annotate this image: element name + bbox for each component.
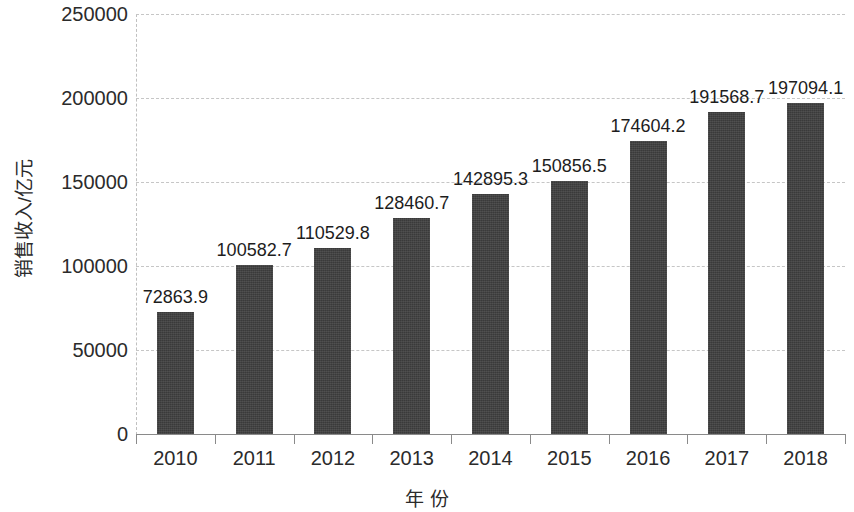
bar[interactable] [236, 265, 273, 434]
y-axis-tick-label: 100000 [20, 256, 128, 276]
x-axis-tick-mark [766, 435, 767, 444]
bar[interactable] [551, 181, 588, 434]
bar[interactable] [314, 248, 351, 434]
x-axis-tick-label: 2018 [756, 448, 854, 468]
bar-value-label: 110529.8 [273, 224, 393, 242]
x-axis-tick-mark [136, 435, 137, 444]
x-axis-title: 年 份 [0, 484, 854, 511]
gridline [136, 14, 845, 15]
bar[interactable] [472, 194, 509, 434]
bar-chart: 销售收入/亿元 050000100000150000200000250000 7… [0, 0, 854, 512]
x-axis-tick-mark [609, 435, 610, 444]
y-axis-tick-label: 250000 [20, 4, 128, 24]
bar-value-label: 100582.7 [194, 241, 314, 259]
bar-value-label: 128460.7 [352, 194, 472, 212]
x-axis-tick-mark [530, 435, 531, 444]
bar-value-label: 150856.5 [509, 157, 629, 175]
bar[interactable] [630, 141, 667, 434]
y-axis-tick-label: 150000 [20, 172, 128, 192]
bar[interactable] [787, 103, 824, 434]
bar-value-label: 197094.1 [746, 79, 854, 97]
y-axis-tick-labels: 050000100000150000200000250000 [18, 0, 128, 512]
bar[interactable] [393, 218, 430, 434]
bar[interactable] [157, 312, 194, 434]
x-axis-tick-mark [687, 435, 688, 444]
x-axis-tick-mark [845, 435, 846, 444]
plot-area [136, 14, 845, 434]
x-axis-line [136, 434, 846, 435]
bar-value-label: 72863.9 [115, 288, 235, 306]
bar[interactable] [708, 112, 745, 434]
x-axis-tick-mark [372, 435, 373, 444]
y-axis-tick-label: 200000 [20, 88, 128, 108]
x-axis-tick-mark [451, 435, 452, 444]
x-axis-tick-mark [294, 435, 295, 444]
x-axis-tick-mark [215, 435, 216, 444]
y-axis-tick-label: 0 [20, 424, 128, 444]
bar-value-label: 174604.2 [588, 117, 708, 135]
y-axis-tick-label: 50000 [20, 340, 128, 360]
